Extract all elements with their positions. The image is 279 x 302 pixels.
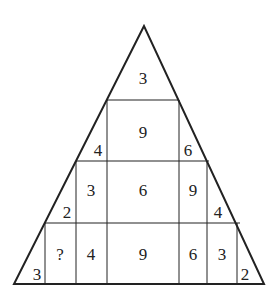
cell-row2-left: 4 bbox=[94, 141, 103, 160]
triangle-diagram: 3 9 4 6 2 3 6 9 4 3 ? 4 9 6 3 2 bbox=[0, 0, 279, 302]
cell-row3-b: 9 bbox=[189, 181, 198, 200]
cell-row4-center: 9 bbox=[139, 245, 148, 264]
cell-row4-b: 6 bbox=[189, 245, 198, 264]
cell-row3-left-corner: 2 bbox=[63, 203, 72, 222]
cell-top: 3 bbox=[139, 69, 148, 88]
cell-row4-a: 4 bbox=[87, 245, 96, 264]
cell-row4-unknown: ? bbox=[56, 245, 64, 264]
cell-row3-center: 6 bbox=[139, 181, 148, 200]
cell-row3-a: 3 bbox=[87, 181, 96, 200]
cell-row2-center: 9 bbox=[139, 123, 148, 142]
cell-row4-left-corner: 3 bbox=[33, 265, 42, 284]
cell-row2-right: 6 bbox=[184, 141, 193, 160]
cell-row3-right-corner: 4 bbox=[214, 203, 223, 222]
cell-row4-c: 3 bbox=[218, 245, 227, 264]
cell-row4-right-corner: 2 bbox=[241, 265, 250, 284]
